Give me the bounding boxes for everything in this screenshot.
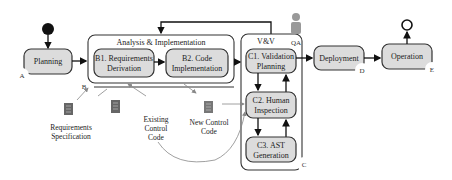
edge-req-b1-arrow: [98, 89, 107, 96]
artifact-req-spec-line2: Specification: [51, 132, 91, 141]
marker-a: A: [19, 72, 24, 80]
svg-text:B1. Requirements: B1. Requirements: [95, 54, 153, 63]
marker-d: D: [359, 67, 364, 75]
svg-text:B2. Code: B2. Code: [182, 54, 213, 63]
marker-c: C: [302, 161, 307, 169]
start-node: [42, 23, 54, 35]
group-analysis-label: Analysis & Implementation: [117, 38, 206, 47]
svg-text:Inspection: Inspection: [254, 106, 287, 115]
actor-qa-label: QA: [291, 39, 301, 47]
edge-b2-newcode: [184, 84, 196, 93]
svg-text:C1. Validation: C1. Validation: [248, 52, 294, 61]
artifact-existing-line3: Code: [148, 133, 165, 142]
artifact-new-line2: Code: [201, 127, 218, 136]
node-c1-validation-planning[interactable]: C1. Validation Planning: [246, 49, 296, 73]
person-icon: [291, 13, 301, 34]
node-b2-code-implementation[interactable]: B2. Code Implementation: [166, 49, 228, 77]
node-b1-requirements-derivation[interactable]: B1. Requirements Derivation: [94, 49, 154, 77]
svg-text:Deployment: Deployment: [319, 54, 359, 63]
artifact-req-spec-line1: Requirements: [50, 123, 92, 132]
marker-e: E: [430, 66, 434, 74]
node-c2-human-inspection[interactable]: C2. Human Inspection: [246, 92, 296, 118]
node-operation[interactable]: Operation: [382, 44, 432, 69]
svg-text:Derivation: Derivation: [107, 64, 141, 73]
document-icon: [64, 103, 73, 115]
artifact-new-line1: New Control: [190, 118, 229, 127]
svg-text:Implementation: Implementation: [172, 64, 223, 73]
node-planning-label: Planning: [34, 57, 62, 66]
end-node: [402, 20, 412, 30]
svg-text:Planning: Planning: [257, 62, 285, 71]
document-icon: [111, 100, 120, 113]
artifact-existing-line1: Existing: [143, 115, 168, 124]
artifact-existing-line2: Control: [145, 124, 168, 133]
svg-text:C3. AST: C3. AST: [257, 141, 285, 150]
workflow-diagram: Planning A Analysis & Implementation B1.…: [0, 0, 452, 180]
svg-text:Operation: Operation: [391, 52, 423, 61]
node-planning[interactable]: Planning: [24, 49, 72, 74]
node-c3-ast-generation[interactable]: C3. AST Generation: [246, 137, 296, 162]
edge-existing-b1: [128, 84, 146, 96]
edge-vv-feedback: [161, 22, 271, 35]
svg-text:C2. Human: C2. Human: [253, 96, 290, 105]
svg-text:Generation: Generation: [253, 151, 289, 160]
document-icon: [204, 101, 213, 113]
group-vv-label: V&V: [257, 37, 275, 46]
